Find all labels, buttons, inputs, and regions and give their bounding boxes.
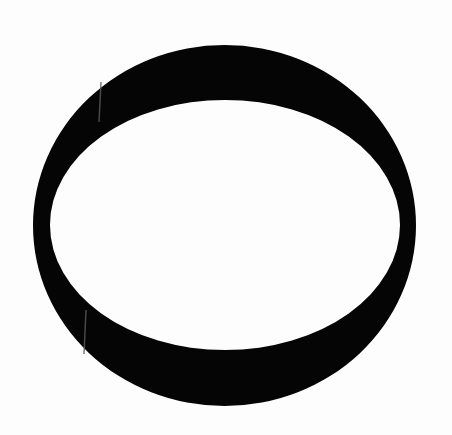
black-ring-shape [33,45,416,406]
ring-drawing [0,0,452,435]
